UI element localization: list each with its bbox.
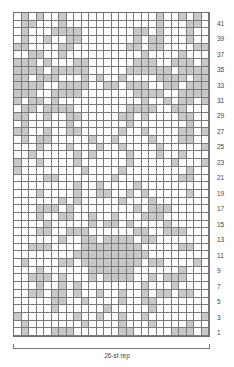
chart-cell	[194, 328, 202, 336]
chart-cell	[119, 267, 127, 275]
chart-cell	[142, 182, 150, 190]
chart-cell	[172, 136, 180, 144]
chart-cell	[134, 98, 142, 106]
chart-cell	[89, 144, 97, 152]
row-label: 21	[217, 174, 224, 182]
row-label: 13	[217, 236, 224, 244]
chart-cell	[194, 82, 202, 90]
chart-cell	[44, 36, 52, 44]
chart-cell	[172, 36, 180, 44]
chart-cell	[82, 244, 90, 252]
chart-cell	[164, 144, 172, 152]
chart-cell	[149, 274, 157, 282]
chart-cell	[104, 67, 112, 75]
chart-cell	[22, 67, 30, 75]
row-label: 5	[217, 298, 221, 306]
chart-cell	[157, 182, 165, 190]
chart-cell	[112, 144, 120, 152]
chart-cell	[37, 328, 45, 336]
chart-cell	[89, 298, 97, 306]
chart-cell	[82, 182, 90, 190]
chart-cell	[127, 251, 135, 259]
chart-cell	[44, 274, 52, 282]
chart-cell	[52, 21, 60, 29]
chart-cell	[202, 75, 210, 83]
chart-cell	[142, 144, 150, 152]
chart-cell	[194, 67, 202, 75]
chart-cell	[74, 144, 82, 152]
chart-cell	[104, 44, 112, 52]
chart-cell	[89, 51, 97, 59]
chart-cell	[119, 136, 127, 144]
chart-cell	[59, 98, 67, 106]
chart-cell	[119, 28, 127, 36]
chart-cell	[44, 290, 52, 298]
chart-cell	[37, 28, 45, 36]
chart-cell	[149, 36, 157, 44]
chart-cell	[59, 36, 67, 44]
chart-cell	[142, 36, 150, 44]
chart-cell	[104, 51, 112, 59]
chart-cell	[59, 313, 67, 321]
chart-cell	[157, 51, 165, 59]
chart-cell	[44, 21, 52, 29]
chart-cell	[134, 305, 142, 313]
chart-cell	[59, 198, 67, 206]
chart-cell	[29, 328, 37, 336]
chart-cell	[187, 13, 195, 21]
chart-cell	[164, 13, 172, 21]
chart-cell	[179, 21, 187, 29]
chart-cell	[112, 328, 120, 336]
chart-cell	[52, 128, 60, 136]
chart-cell	[202, 98, 210, 106]
chart-cell	[14, 244, 22, 252]
chart-cell	[202, 136, 210, 144]
chart-cell	[187, 236, 195, 244]
chart-cell	[59, 167, 67, 175]
chart-cell	[127, 205, 135, 213]
chart-cell	[134, 221, 142, 229]
chart-cell	[67, 198, 75, 206]
row-label: 3	[217, 314, 221, 322]
chart-cell	[37, 175, 45, 183]
chart-cell	[37, 105, 45, 113]
chart-cell	[187, 228, 195, 236]
chart-cell	[172, 128, 180, 136]
chart-cell	[14, 59, 22, 67]
chart-cell	[187, 128, 195, 136]
chart-cell	[179, 267, 187, 275]
chart-cell	[157, 28, 165, 36]
chart-cell	[29, 128, 37, 136]
chart-cell	[22, 221, 30, 229]
chart-cell	[172, 75, 180, 83]
chart-cell	[149, 105, 157, 113]
chart-cell	[127, 67, 135, 75]
knitting-chart-grid	[13, 12, 210, 337]
chart-cell	[74, 313, 82, 321]
chart-cell	[74, 290, 82, 298]
chart-cell	[127, 144, 135, 152]
chart-cell	[74, 128, 82, 136]
chart-cell	[164, 251, 172, 259]
chart-cell	[82, 159, 90, 167]
chart-cell	[149, 21, 157, 29]
chart-cell	[119, 190, 127, 198]
chart-cell	[194, 251, 202, 259]
chart-cell	[127, 298, 135, 306]
chart-cell	[59, 28, 67, 36]
chart-cell	[37, 221, 45, 229]
chart-cell	[127, 328, 135, 336]
chart-cell	[142, 282, 150, 290]
chart-cell	[112, 36, 120, 44]
chart-cell	[14, 67, 22, 75]
chart-cell	[104, 113, 112, 121]
chart-cell	[52, 244, 60, 252]
chart-cell	[134, 198, 142, 206]
chart-cell	[104, 28, 112, 36]
chart-cell	[29, 144, 37, 152]
chart-cell	[179, 44, 187, 52]
chart-cell	[187, 298, 195, 306]
chart-cell	[14, 175, 22, 183]
chart-cell	[14, 36, 22, 44]
chart-cell	[194, 44, 202, 52]
